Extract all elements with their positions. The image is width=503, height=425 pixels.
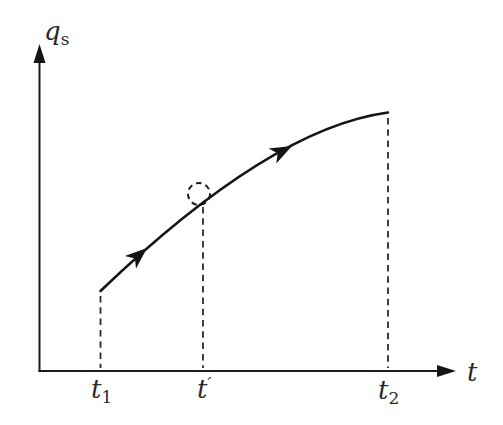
x-axis-label: t [467,357,478,387]
trajectory-curve [101,113,389,292]
tick-label-t1: t1 [91,374,112,407]
y-axis [34,44,46,372]
qs-versus-t-figure: qs t t1 t′ t2 [0,0,503,425]
tick-label-t-prime: t′ [197,373,211,404]
tick-label-t2: t2 [378,375,399,408]
y-axis-label: qs [44,16,69,49]
dashed-highlight-circle [188,183,210,205]
x-axis-arrowhead-icon [437,365,456,377]
curve-direction-arrowhead-2 [269,138,296,163]
y-axis-arrowhead-icon [34,44,46,63]
